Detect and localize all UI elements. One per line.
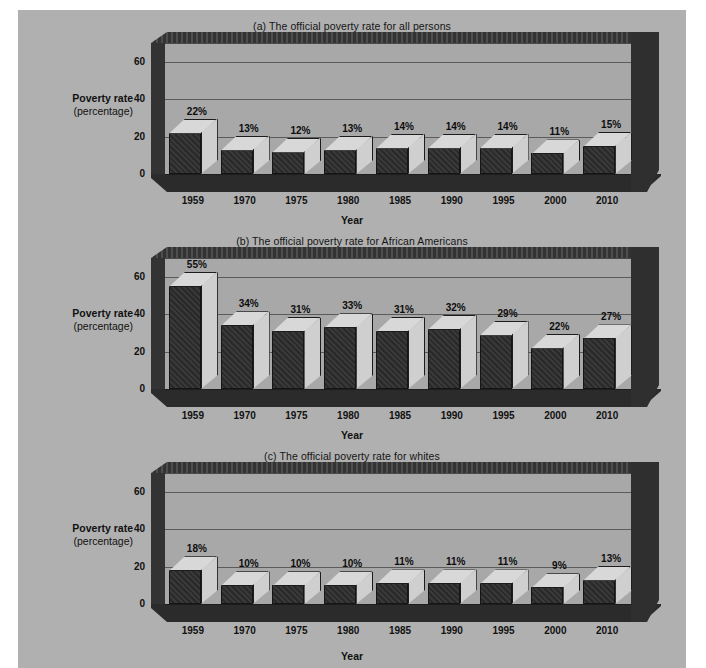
- x-axis-label-2010-a: 2010: [577, 195, 637, 206]
- bar-1985-b[interactable]: [376, 317, 424, 389]
- bar-front-face: [324, 327, 356, 389]
- y-tick-label-60-b: 60: [105, 271, 145, 282]
- bar-value-1959-b: 55%: [173, 259, 221, 270]
- bar-1980-a[interactable]: [324, 136, 372, 174]
- bar-front-face: [583, 338, 615, 389]
- left-frame-band-a: [151, 43, 165, 174]
- x-axis-label-2010-b: 2010: [577, 410, 637, 421]
- bar-1959-c[interactable]: [169, 556, 217, 604]
- bar-front-face: [272, 152, 304, 174]
- bar-front-face: [480, 335, 512, 389]
- bar-value-1959-a: 22%: [173, 106, 221, 117]
- bar-value-1970-a: 13%: [225, 123, 273, 134]
- bar-1975-c[interactable]: [272, 571, 320, 604]
- bar-front-face: [376, 583, 408, 604]
- bar-value-1990-a: 14%: [432, 121, 480, 132]
- bar-1995-c[interactable]: [480, 569, 528, 604]
- bar-1985-a[interactable]: [376, 134, 424, 174]
- bar-value-1970-c: 10%: [225, 558, 273, 569]
- bar-value-1985-a: 14%: [380, 121, 428, 132]
- bar-side-face: [201, 272, 218, 389]
- bar-2000-c[interactable]: [531, 573, 579, 604]
- bar-value-2010-c: 13%: [587, 553, 635, 564]
- bar-front-face: [221, 585, 253, 604]
- bar-1990-c[interactable]: [428, 569, 476, 604]
- bar-2000-a[interactable]: [531, 139, 579, 174]
- bar-front-face: [169, 133, 201, 174]
- baseline-b: [165, 389, 631, 390]
- bar-front-face: [531, 348, 563, 389]
- bar-2000-b[interactable]: [531, 334, 579, 389]
- bar-front-face: [583, 580, 615, 604]
- bar-1990-b[interactable]: [428, 315, 476, 389]
- bar-value-1995-b: 29%: [484, 308, 532, 319]
- y-tick-label-60-a: 60: [105, 56, 145, 67]
- bar-2010-c[interactable]: [583, 566, 631, 604]
- bar-value-1975-a: 12%: [276, 125, 324, 136]
- plot-floor-a: [151, 174, 661, 192]
- bar-value-1980-b: 33%: [328, 300, 376, 311]
- bar-front-face: [531, 153, 563, 174]
- bar-2010-a[interactable]: [583, 132, 631, 174]
- chart-panel-b: (b) The official poverty rate for Africa…: [18, 225, 686, 447]
- baseline-c: [165, 604, 631, 605]
- bar-1975-a[interactable]: [272, 138, 320, 174]
- bar-value-1985-b: 31%: [380, 304, 428, 315]
- baseline-a: [165, 174, 631, 175]
- bar-1975-b[interactable]: [272, 317, 320, 389]
- bar-1970-b[interactable]: [221, 311, 269, 389]
- gridline-60-b: [165, 277, 631, 278]
- top-frame-band-c: [151, 462, 647, 473]
- left-frame-band-b: [151, 258, 165, 389]
- bar-value-1980-a: 13%: [328, 123, 376, 134]
- chart-panel-a: (a) The official poverty rate for all pe…: [18, 10, 686, 232]
- bar-value-1975-b: 31%: [276, 304, 324, 315]
- chart-title-c: (c) The official poverty rate for whites: [18, 450, 686, 462]
- y-axis-title-sub-b: (percentage): [73, 320, 133, 332]
- bar-value-1995-c: 11%: [484, 556, 532, 567]
- bar-1995-a[interactable]: [480, 134, 528, 174]
- bar-front-face: [531, 587, 563, 604]
- bar-value-2010-b: 27%: [587, 311, 635, 322]
- top-frame-band-a: [151, 32, 647, 43]
- gridline-40-a: [165, 99, 631, 100]
- chart-title-b: (b) The official poverty rate for Africa…: [18, 235, 686, 247]
- bar-2010-b[interactable]: [583, 324, 631, 389]
- right-frame-band-a: [631, 32, 659, 192]
- bar-front-face: [583, 146, 615, 174]
- right-frame-band-b: [631, 247, 659, 407]
- y-tick-label-0-c: 0: [105, 598, 145, 609]
- bar-front-face: [221, 325, 253, 389]
- bar-value-1990-b: 32%: [432, 302, 480, 313]
- y-tick-label-20-a: 20: [105, 131, 145, 142]
- bar-1959-a[interactable]: [169, 119, 217, 174]
- bar-1995-b[interactable]: [480, 321, 528, 389]
- bar-1990-a[interactable]: [428, 134, 476, 174]
- bar-front-face: [272, 585, 304, 604]
- bar-value-2000-c: 9%: [535, 560, 583, 571]
- gridline-40-c: [165, 529, 631, 530]
- figure-page: (a) The official poverty rate for all pe…: [18, 10, 686, 668]
- bar-value-1975-c: 10%: [276, 558, 324, 569]
- bar-1980-c[interactable]: [324, 571, 372, 604]
- bar-1970-a[interactable]: [221, 136, 269, 174]
- y-tick-label-40-b: 40: [105, 308, 145, 319]
- gridline-60-c: [165, 492, 631, 493]
- chart-title-a: (a) The official poverty rate for all pe…: [18, 20, 686, 32]
- bar-1985-c[interactable]: [376, 569, 424, 604]
- y-axis-title-sub-c: (percentage): [73, 535, 133, 547]
- bar-front-face: [324, 585, 356, 604]
- y-tick-label-20-b: 20: [105, 346, 145, 357]
- right-frame-band-c: [631, 462, 659, 622]
- x-axis-title-c: Year: [18, 650, 686, 662]
- bar-value-1995-a: 14%: [484, 121, 532, 132]
- bar-1959-b[interactable]: [169, 272, 217, 389]
- bar-front-face: [324, 150, 356, 174]
- bar-value-1990-c: 11%: [432, 556, 480, 567]
- chart-panel-c: (c) The official poverty rate for whites…: [18, 440, 686, 668]
- y-tick-label-40-c: 40: [105, 523, 145, 534]
- bar-front-face: [428, 329, 460, 389]
- bar-front-face: [480, 148, 512, 174]
- bar-1980-b[interactable]: [324, 313, 372, 389]
- bar-1970-c[interactable]: [221, 571, 269, 604]
